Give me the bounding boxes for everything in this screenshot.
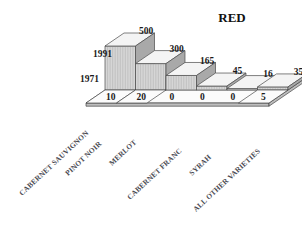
value-label-1971-5: 5 [261,92,266,102]
series-label-1991: 1991 [93,49,112,59]
chart-canvas: RED 50030016545163510200005 19911971 CAB… [0,0,302,240]
value-label-1991-1: 300 [169,44,184,54]
chart-title: RED [218,10,245,25]
red-wine-varietals-3d-bar-chart: RED 50030016545163510200005 19911971 CAB… [0,0,302,240]
plate-front-edge [86,103,269,106]
value-label-1971-4: 0 [230,92,235,102]
value-label-1971-2: 0 [169,92,174,102]
value-label-1991-0: 500 [139,26,154,36]
value-label-1971-0: 10 [106,92,116,102]
value-label-1991-4: 16 [263,69,273,79]
value-label-1971-3: 0 [200,92,205,102]
value-label-1991-2: 165 [200,56,215,66]
value-label-1991-5: 35 [294,67,302,77]
series-label-1971: 1971 [80,74,99,84]
value-label-1971-1: 20 [137,92,147,102]
value-label-1991-3: 45 [233,66,243,76]
